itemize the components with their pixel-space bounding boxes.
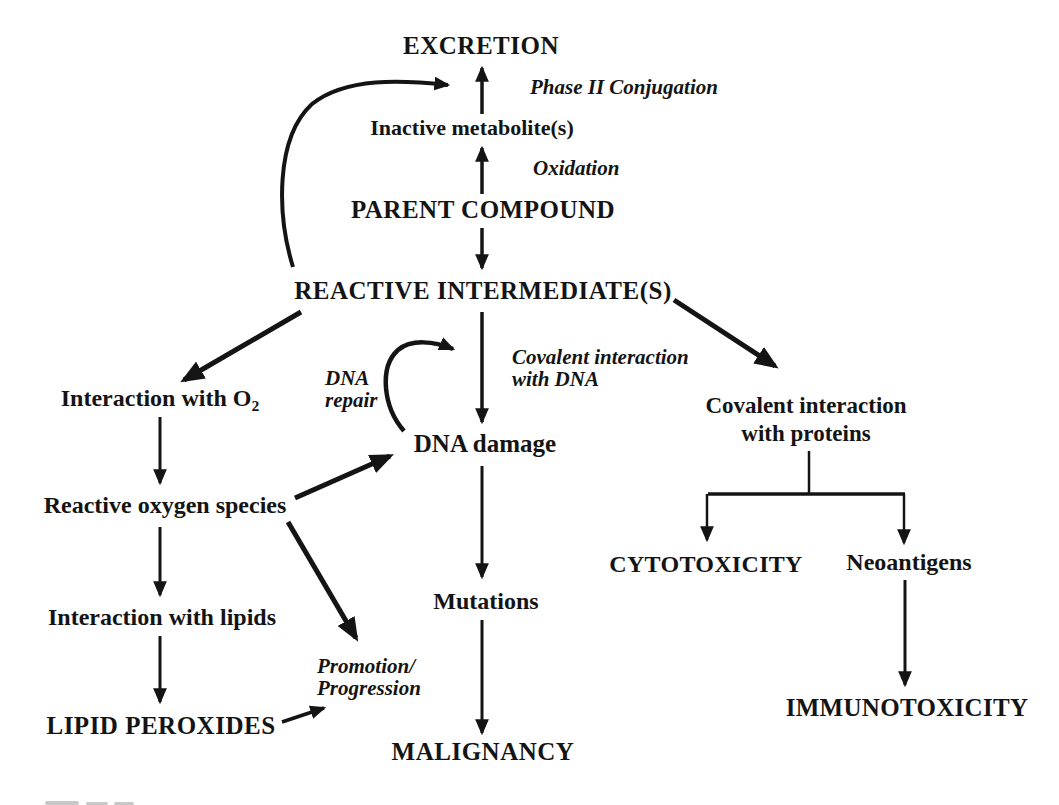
arrow-ros-to-promotion [288,522,356,638]
node-interaction-with-o2: Interaction with O2 [61,385,259,416]
label-dna-repair-line2: repair [325,389,378,411]
node-dna-damage: DNA damage [414,430,556,458]
node-covalent-interaction-proteins-line1: Covalent interaction [705,392,906,420]
node-neoantigens: Neoantigens [846,549,971,576]
label-dna-repair: DNA repair [325,367,378,411]
node-covalent-interaction-proteins-line2: with proteins [705,420,906,448]
arrow-peroxides-to-promotion [282,708,324,722]
node-immunotoxicity: IMMUNOTOXICITY [786,694,1029,722]
cropped-caption-fragment [45,801,134,805]
metabolism-toxicity-flowchart: EXCRETION Inactive metabolite(s) PARENT … [0,0,1059,805]
node-interaction-with-o2-text: Interaction with O [61,385,252,411]
node-inactive-metabolites: Inactive metabolite(s) [370,115,573,141]
node-malignancy: MALIGNANCY [392,738,575,766]
arrow-dna-repair-loop [386,342,453,431]
arrow-reactive-to-o2 [184,312,301,380]
node-mutations: Mutations [433,588,538,615]
label-covalent-interaction-dna-line2: with DNA [512,368,689,390]
node-lipid-peroxides: LIPID PEROXIDES [46,712,275,740]
node-interaction-with-o2-subscript: 2 [251,397,259,414]
node-excretion: EXCRETION [403,32,559,60]
arrow-ros-to-dna-damage [295,456,390,498]
arrow-reactive-to-excretion-curve [282,82,448,267]
label-phase-ii-conjugation: Phase II Conjugation [530,76,718,98]
arrow-reactive-to-proteins [674,300,775,366]
label-promotion-progression-line2: Progression [317,677,421,699]
label-dna-repair-line1: DNA [325,367,378,389]
node-reactive-intermediates: REACTIVE INTERMEDIATE(S) [294,277,672,305]
label-covalent-interaction-dna: Covalent interaction with DNA [512,346,689,390]
node-parent-compound: PARENT COMPOUND [351,196,615,224]
label-promotion-progression: Promotion/ Progression [317,655,421,699]
node-interaction-with-lipids: Interaction with lipids [48,604,276,631]
node-covalent-interaction-proteins: Covalent interaction with proteins [705,392,906,448]
label-covalent-interaction-dna-line1: Covalent interaction [512,346,689,368]
node-cytotoxicity: CYTOTOXICITY [609,551,802,578]
label-oxidation: Oxidation [533,157,619,179]
label-promotion-progression-line1: Promotion/ [317,655,421,677]
node-reactive-oxygen-species: Reactive oxygen species [44,492,287,519]
